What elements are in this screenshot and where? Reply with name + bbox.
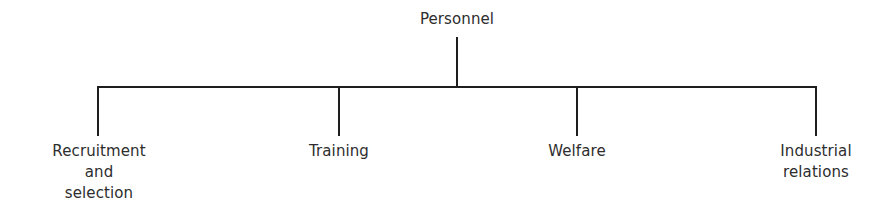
root-stem-line: [456, 37, 458, 88]
node-label-line: Welfare: [548, 141, 606, 162]
horizontal-bus-line: [97, 86, 817, 88]
node-label-line: Training: [309, 141, 369, 162]
node-personnel: Personnel: [420, 9, 494, 30]
branch-line-recruitment: [97, 86, 99, 136]
node-training: Training: [309, 141, 369, 162]
node-personnel-label: Personnel: [420, 9, 494, 30]
node-label-line: and: [52, 162, 145, 183]
node-label-line: relations: [780, 162, 851, 183]
node-label-line: Recruitment: [52, 141, 145, 162]
branch-line-industrial-relations: [815, 86, 817, 136]
node-welfare: Welfare: [548, 141, 606, 162]
branch-line-welfare: [576, 86, 578, 136]
node-recruitment-and-selection: Recruitment and selection: [52, 141, 145, 204]
node-label-line: Industrial: [780, 141, 851, 162]
branch-line-training: [338, 86, 340, 136]
node-label-line: selection: [52, 183, 145, 204]
node-industrial-relations: Industrial relations: [780, 141, 851, 183]
